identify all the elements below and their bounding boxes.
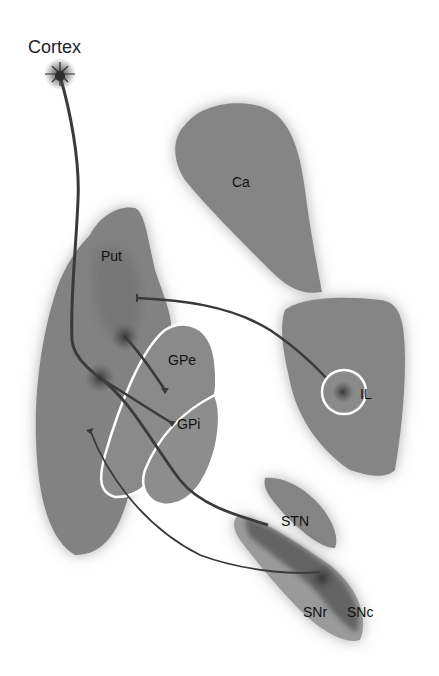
snc-neuron-icon — [308, 564, 336, 592]
gpi-label: GPi — [177, 417, 200, 431]
caudate-region — [175, 103, 322, 293]
snc-region[interactable] — [245, 518, 358, 632]
snr-label: SNr — [303, 605, 327, 619]
gpe-label: GPe — [168, 353, 196, 367]
basal-ganglia-diagram — [0, 0, 439, 676]
snc-label: SNc — [347, 605, 373, 619]
stn-label: STN — [281, 514, 309, 528]
cortex-label: Cortex — [28, 38, 81, 56]
putamen-neuron-1-icon — [111, 323, 139, 351]
putamen-neuron-2-icon — [85, 363, 115, 393]
caudate-label: Ca — [232, 175, 250, 189]
cortex-neuron-icon — [44, 58, 76, 90]
il-label: IL — [360, 387, 372, 401]
putamen-label: Put — [101, 249, 122, 263]
